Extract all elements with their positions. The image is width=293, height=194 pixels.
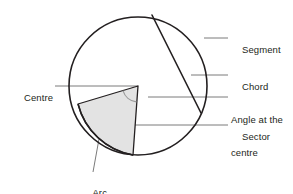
leader-line-arc	[93, 139, 99, 172]
label-centre: Centre	[13, 81, 51, 114]
label-sector: Sector	[231, 120, 270, 153]
label-chord-line-1: Chord	[242, 81, 268, 92]
label-segment: Segment	[231, 33, 281, 66]
label-segment-line-1: Segment	[242, 44, 281, 55]
label-arc-line-1: Arc	[92, 187, 107, 194]
label-arc: Arc	[82, 176, 107, 194]
label-centre-line-1: Centre	[24, 92, 53, 103]
circle-parts-diagram: Centre Segment Chord Angle at the centre…	[0, 0, 293, 194]
label-sector-line-1: Sector	[242, 131, 270, 142]
